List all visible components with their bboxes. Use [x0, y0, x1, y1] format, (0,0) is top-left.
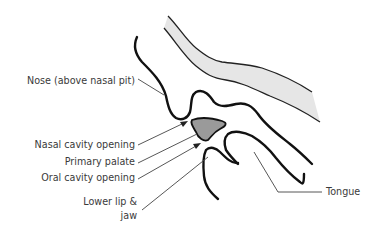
label-nose: Nose (above nasal pit): [27, 75, 135, 86]
leader-primary-palate: [138, 134, 197, 163]
leader-nasal-cavity-opening: [138, 123, 184, 145]
label-nasal-cavity-opening: Nasal cavity opening: [35, 139, 135, 150]
embryo-face-diagram: [0, 0, 382, 233]
label-lower-lip-line1: Lower lip &: [83, 196, 137, 207]
label-oral-cavity-opening: Oral cavity opening: [41, 172, 135, 183]
lower-lip-jaw-contour: [203, 148, 238, 199]
label-tongue: Tongue: [326, 186, 360, 197]
label-lower-lip-line2: jaw: [121, 210, 137, 221]
upper-shaded-band: [164, 16, 320, 122]
label-primary-palate: Primary palate: [65, 156, 135, 167]
primary-palate-shape: [191, 118, 225, 140]
arrowhead-oral-cavity: [193, 143, 201, 149]
leader-lower-lip-jaw: [142, 157, 208, 210]
tongue-contour: [225, 132, 304, 184]
